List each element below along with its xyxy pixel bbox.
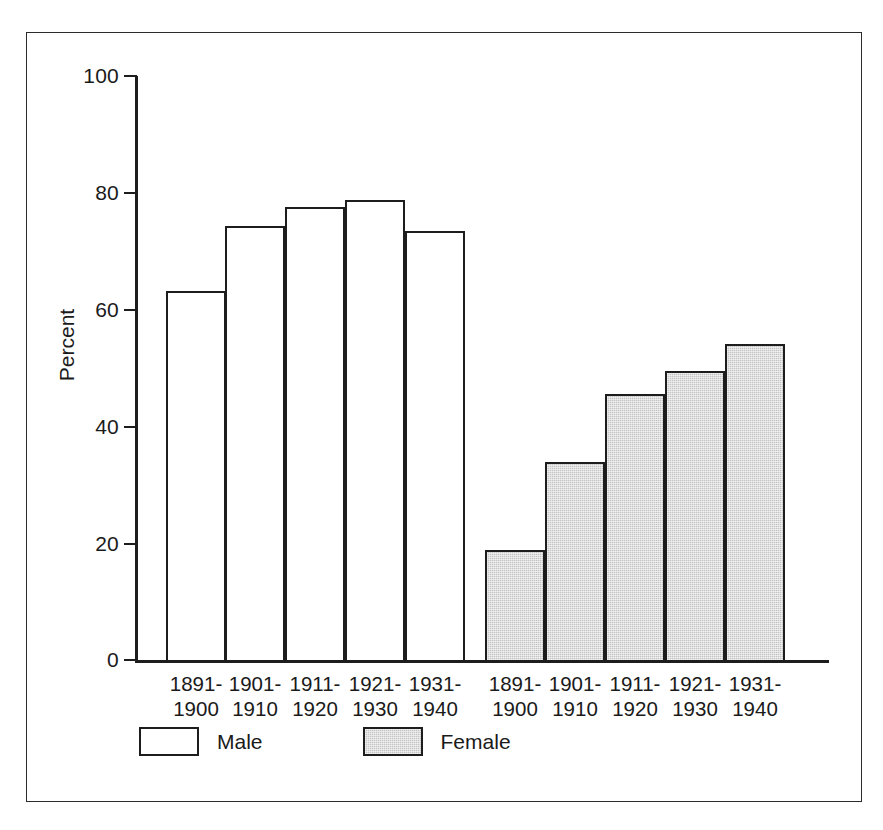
y-tick-label-40: 40 — [71, 415, 119, 439]
y-tick-0 — [124, 659, 137, 661]
bar-chart-plot-area: 100 80 60 40 20 0 Percent — [27, 33, 863, 803]
bar-male-1891-1900 — [166, 291, 226, 662]
bar-female-1921-1930 — [665, 371, 725, 662]
bar-male-1921-1930 — [345, 200, 405, 662]
y-tick-label-0: 0 — [71, 648, 119, 672]
bar-female-1931-1940 — [725, 344, 785, 662]
x-label-female-5: 1931- 1940 — [720, 671, 790, 721]
y-tick-20 — [124, 543, 137, 545]
y-tick-label-80-wrap: 80 — [47, 181, 119, 205]
y-tick-label-0-wrap: 0 — [47, 648, 119, 672]
y-tick-60 — [124, 309, 137, 311]
bar-female-1911-1920 — [605, 394, 665, 662]
figure-frame: 100 80 60 40 20 0 Percent — [26, 32, 862, 802]
legend-label-female: Female — [441, 730, 511, 754]
legend-entry-female: Female — [363, 727, 511, 756]
bar-male-1931-1940 — [405, 231, 465, 662]
y-tick-80 — [124, 192, 137, 194]
x-label-male-5: 1931- 1940 — [400, 671, 470, 721]
y-tick-100 — [124, 75, 137, 77]
legend-swatch-male-icon — [139, 727, 199, 756]
bar-male-1901-1910 — [225, 226, 285, 662]
bar-female-1901-1910 — [545, 462, 605, 662]
bar-female-1891-1900 — [485, 550, 545, 662]
y-tick-label-100: 100 — [71, 64, 119, 88]
y-tick-label-20-wrap: 20 — [47, 532, 119, 556]
y-axis-title: Percent — [55, 275, 79, 415]
legend-swatch-female-icon — [363, 727, 423, 756]
y-tick-label-80: 80 — [71, 181, 119, 205]
y-tick-label-20: 20 — [71, 532, 119, 556]
legend-label-male: Male — [217, 730, 263, 754]
y-tick-label-100-wrap: 100 — [47, 64, 119, 88]
y-tick-40 — [124, 426, 137, 428]
legend-entry-male: Male — [139, 727, 263, 756]
bar-male-1911-1920 — [285, 207, 345, 662]
y-axis-line — [135, 76, 138, 662]
chart-legend: Male Female — [139, 727, 511, 756]
y-tick-label-40-wrap: 40 — [47, 415, 119, 439]
